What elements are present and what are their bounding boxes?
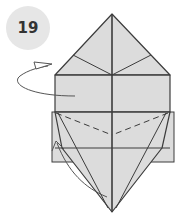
origami-step-diagram: 19	[0, 0, 188, 223]
model-drawing	[0, 0, 188, 223]
